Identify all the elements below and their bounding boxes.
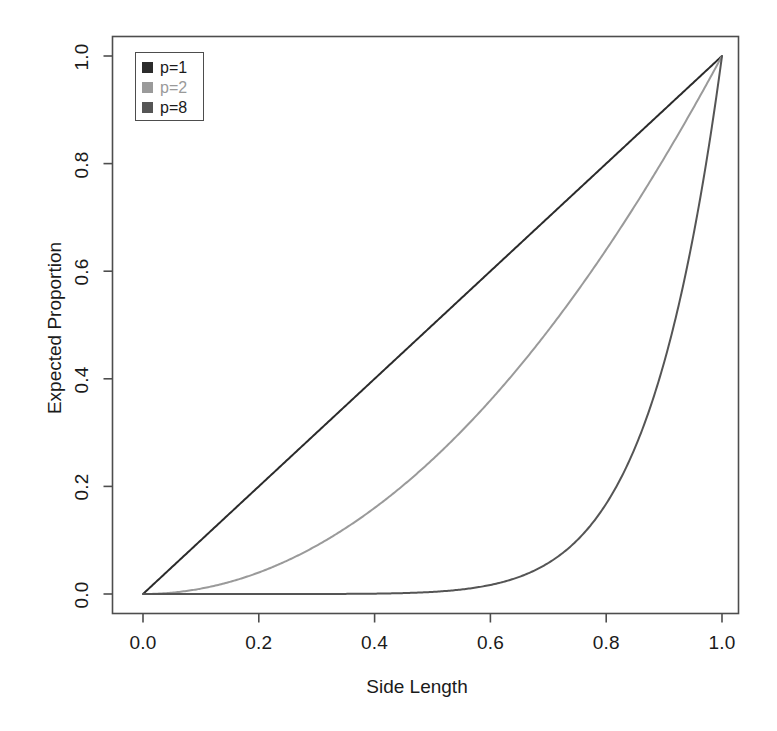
x-tick-label-4: 0.8 <box>593 632 620 654</box>
legend-swatch-p1 <box>142 62 153 73</box>
y-tick-label-5: 1.0 <box>71 37 93 77</box>
y-tick-label-0: 0.0 <box>71 575 93 615</box>
legend-item-p1: p=1 <box>142 58 187 77</box>
legend-swatch-p2 <box>142 82 153 93</box>
chart-figure: 0.0 0.2 0.4 0.6 0.8 1.0 0.0 0.2 0.4 0.6 … <box>0 0 777 731</box>
y-tick-label-2: 0.4 <box>71 360 93 400</box>
legend-swatch-p8 <box>142 102 153 113</box>
y-tick-label-4: 0.8 <box>71 145 93 185</box>
plot-frame <box>113 37 739 614</box>
x-tick-label-3: 0.6 <box>477 632 504 654</box>
y-axis-title: Expected Proportion <box>44 218 66 438</box>
x-tick-label-2: 0.4 <box>361 632 388 654</box>
chart-legend: p=1 p=2 p=8 <box>135 52 204 121</box>
y-tick-label-3: 0.6 <box>71 252 93 292</box>
plot-canvas <box>0 0 777 731</box>
legend-item-p8: p=8 <box>142 98 187 117</box>
legend-item-p2: p=2 <box>142 78 187 97</box>
legend-label-p2: p=2 <box>160 80 187 96</box>
y-axis-ticks <box>104 56 113 594</box>
x-tick-label-1: 0.2 <box>245 632 272 654</box>
legend-label-p8: p=8 <box>160 100 187 116</box>
data-series-group <box>143 56 722 594</box>
series-line-p1 <box>143 56 722 594</box>
x-tick-label-5: 1.0 <box>708 632 735 654</box>
x-axis-title: Side Length <box>366 676 467 698</box>
y-tick-label-1: 0.2 <box>71 467 93 507</box>
x-axis-ticks <box>143 614 722 623</box>
x-tick-label-0: 0.0 <box>129 632 156 654</box>
legend-label-p1: p=1 <box>160 60 187 76</box>
